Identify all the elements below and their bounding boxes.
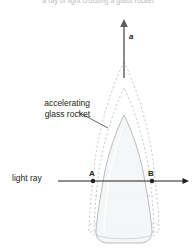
acceleration-arrow [120,19,128,78]
light-ray-arrow-head [183,178,190,184]
point-b-marker [150,179,154,183]
light-ray-label: light ray [12,173,42,184]
rocket-label-line-1: accelerating [10,98,90,109]
physics-figure-accelerating-glass-rocket: a ray of light crossing a glass rocket a… [0,0,196,252]
acceleration-symbol-label: a [129,32,133,42]
point-a-marker [91,179,95,183]
acceleration-arrow-head [120,19,128,27]
point-b-label: B [148,169,154,179]
point-a-label: A [89,169,95,179]
rocket-label-line-2: glass rocket [10,109,90,120]
rocket-diagram-svg [0,0,196,252]
accelerating-glass-rocket-label: accelerating glass rocket [10,98,90,119]
glass-rocket-body [96,115,152,243]
figure-top-caption: a ray of light crossing a glass rocket [0,0,196,5]
